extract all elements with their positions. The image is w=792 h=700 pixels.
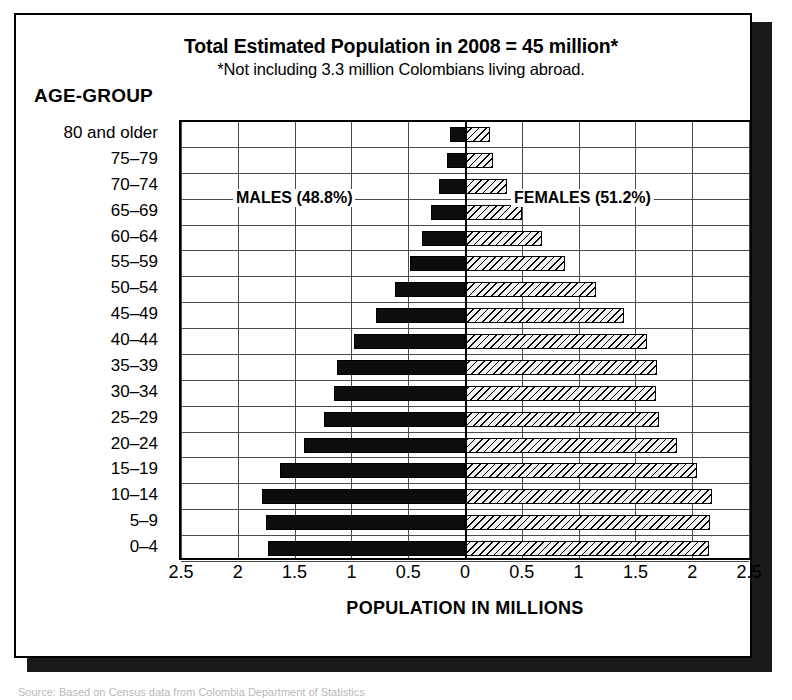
- y-axis-label: 0–4: [16, 534, 166, 560]
- bar-female: [465, 360, 657, 375]
- x-axis-tick-label: 1: [346, 562, 356, 583]
- y-axis-label: 55–59: [16, 249, 166, 275]
- gridline-vertical: [749, 122, 750, 558]
- bar-female: [465, 231, 542, 246]
- x-axis-tick-label: 0.5: [396, 562, 421, 583]
- y-axis-label: 75–79: [16, 146, 166, 172]
- x-axis-tick-label: 0: [460, 562, 470, 583]
- y-axis-label: 70–74: [16, 172, 166, 198]
- y-axis-label: 30–34: [16, 379, 166, 405]
- bar-female: [465, 153, 493, 168]
- x-axis-tick-label: 2.5: [736, 562, 761, 583]
- bar-male: [395, 282, 465, 297]
- bar-male: [334, 386, 465, 401]
- bar-female: [465, 308, 624, 323]
- bar-female: [465, 386, 656, 401]
- legend-label-females: FEMALES (51.2%): [511, 189, 654, 207]
- bar-male: [410, 256, 465, 271]
- bar-male: [376, 308, 465, 323]
- x-axis-tick-label: 1.5: [282, 562, 307, 583]
- figure-card: Total Estimated Population in 2008 = 45 …: [14, 13, 752, 658]
- bar-male: [431, 205, 465, 220]
- y-axis-label: 40–44: [16, 327, 166, 353]
- bar-male: [337, 360, 465, 375]
- bar-male: [439, 179, 465, 194]
- x-axis-tick-label: 0.5: [509, 562, 534, 583]
- bar-female: [465, 256, 565, 271]
- y-axis-label: 50–54: [16, 275, 166, 301]
- y-axis-label: 25–29: [16, 405, 166, 431]
- bar-female: [465, 179, 507, 194]
- bar-female: [465, 127, 490, 142]
- y-axis-label: 10–14: [16, 482, 166, 508]
- y-axis-label: 20–24: [16, 431, 166, 457]
- x-axis-tick-label: 2.5: [168, 562, 193, 583]
- x-axis-tick-label: 1: [574, 562, 584, 583]
- bar-female: [465, 282, 596, 297]
- x-axis-tick-label: 2: [233, 562, 243, 583]
- plot-area: MALES (48.8%) FEMALES (51.2%): [179, 120, 751, 560]
- bar-female: [465, 489, 712, 504]
- bar-female: [465, 515, 710, 530]
- legend-label-males: MALES (48.8%): [233, 189, 355, 207]
- y-axis-label: 80 and older: [16, 120, 166, 146]
- y-axis-label: 45–49: [16, 301, 166, 327]
- bar-male: [422, 231, 465, 246]
- bar-male: [266, 515, 465, 530]
- center-axis-line: [465, 122, 467, 558]
- bar-male: [304, 438, 465, 453]
- x-axis-tick-label: 1.5: [623, 562, 648, 583]
- bar-male: [280, 463, 465, 478]
- y-axis-label: 60–64: [16, 224, 166, 250]
- bar-female: [465, 463, 697, 478]
- x-axis-title: POPULATION IN MILLIONS: [179, 598, 751, 619]
- plot-wrapper: 80 and older75–7970–7465–6960–6455–5950–…: [16, 15, 754, 660]
- bar-female: [465, 438, 677, 453]
- bar-male: [450, 127, 465, 142]
- bar-female: [465, 412, 659, 427]
- bar-female: [465, 541, 709, 556]
- source-caption: Source: Based on Census data from Colomb…: [18, 686, 778, 698]
- bar-male: [447, 153, 465, 168]
- x-axis-tick-label: 2: [687, 562, 697, 583]
- bar-male: [262, 489, 465, 504]
- y-axis-label: 35–39: [16, 353, 166, 379]
- bar-female: [465, 334, 647, 349]
- bar-male: [354, 334, 465, 349]
- bar-male: [268, 541, 465, 556]
- y-axis-label: 65–69: [16, 198, 166, 224]
- y-axis-label: 15–19: [16, 456, 166, 482]
- x-axis-ticks: 2.521.510.500.511.522.5: [179, 562, 751, 588]
- y-axis-labels: 80 and older75–7970–7465–6960–6455–5950–…: [16, 120, 166, 560]
- bar-male: [324, 412, 465, 427]
- y-axis-label: 5–9: [16, 508, 166, 534]
